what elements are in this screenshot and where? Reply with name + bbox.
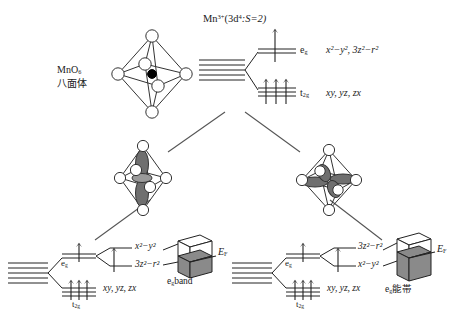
left-upper-orbital: x²−y²: [135, 242, 156, 252]
left-eg-band-box: [178, 235, 216, 278]
octahedron-caption-line1: MnO6: [57, 65, 81, 76]
top-eg-orbitals: x²−y², 3z²−r²: [326, 45, 378, 55]
left-t2g-orbitals: xy, yz, zx: [103, 284, 136, 294]
right-eg-symbol: eg: [285, 259, 292, 269]
right-band-connectors: [383, 243, 397, 266]
left-band-caption: egband: [167, 277, 193, 287]
right-free-ion-levels: [232, 263, 272, 283]
octahedron-caption-line2: 八面体: [57, 79, 87, 89]
right-jt-levels: [334, 248, 356, 266]
figure-canvas: Mn3+(3d4:S=2) MnO6 八面体 eg x²−y², 3z²−r² …: [0, 0, 451, 322]
right-t2g-orbitals: xy, yz, zx: [327, 284, 360, 294]
ion-config: (3d: [225, 13, 239, 24]
left-fermi-label: EF: [218, 247, 228, 258]
left-t2g-electron-arrows: [71, 281, 87, 300]
left-band-connectors: [163, 244, 178, 265]
right-lower-orbital: x²−y²: [358, 260, 379, 270]
octahedron-regular: [112, 30, 192, 118]
top-t2g-symbol: t2g: [300, 88, 309, 99]
top-eg-symbol: eg: [300, 45, 308, 56]
right-fermi-label: EF: [437, 244, 447, 255]
ion-charge: 3+: [218, 13, 225, 20]
left-eg-symbol: eg: [61, 259, 68, 269]
ion-element: Mn: [203, 13, 218, 24]
octahedron-elongated: [114, 140, 171, 215]
right-eg-jt-fork: [320, 248, 334, 266]
right-upper-orbital: 3z²−r²: [358, 242, 382, 252]
octahedron-compressed: [296, 144, 361, 215]
top-eg-levels: [258, 49, 296, 53]
right-splitting-fork: [272, 258, 286, 288]
ion-spin: :S=2): [242, 13, 267, 24]
top-t2g-levels: [258, 88, 296, 96]
right-eg-band-box: [397, 233, 435, 281]
ion-title: Mn3+(3d4:S=2): [203, 14, 266, 25]
right-t2g-electron-arrows: [295, 281, 311, 300]
left-free-ion-levels: [8, 263, 48, 283]
left-lower-orbital: 3z²−r²: [135, 260, 159, 270]
left-t2g-symbol: t2g: [72, 300, 80, 310]
diagram-vectors: [0, 0, 451, 322]
left-jt-levels: [110, 248, 132, 266]
left-eg-jt-fork: [96, 248, 110, 266]
top-free-ion-levels: [199, 60, 245, 80]
left-splitting-fork: [48, 258, 62, 288]
top-t2g-orbitals: xy, yz, zx: [326, 88, 361, 98]
top-splitting-fork: [245, 52, 258, 90]
right-band-caption: eg能帯: [385, 284, 412, 295]
right-t2g-symbol: t2g: [296, 300, 304, 310]
